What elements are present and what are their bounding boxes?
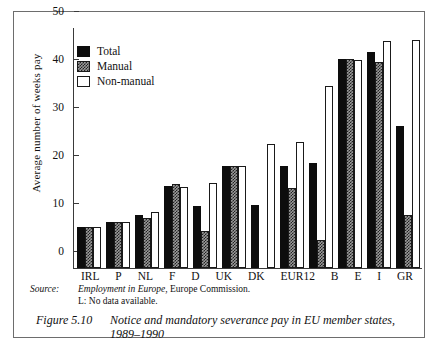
bar-nonmanual [93, 227, 101, 268]
source-line: Source: Employment in Europe, Europe Com… [30, 283, 420, 295]
bar-total [338, 59, 346, 268]
bar-total [106, 222, 114, 268]
bar-nonmanual [151, 212, 159, 268]
bar-total [222, 166, 230, 268]
source-publisher: , Europe Commission. [165, 284, 250, 294]
bar-manual [288, 188, 296, 268]
legend-swatch-manual [77, 61, 90, 72]
x-axis-label-eur12: EUR12 [280, 270, 315, 282]
bar-group [367, 28, 391, 268]
legend-item-nonmanual: Non-manual [77, 75, 154, 87]
x-axis-label-irl: IRL [81, 270, 100, 282]
bar-nonmanual [296, 142, 304, 268]
x-axis-label-i: I [377, 270, 381, 282]
y-axis-tick-label: 0 [58, 245, 64, 257]
y-axis-tick: 20 [53, 145, 75, 163]
bar-total [396, 126, 404, 268]
bar-total [135, 215, 143, 268]
bar-manual [404, 215, 412, 268]
bar-nonmanual [412, 40, 420, 268]
bar-total [309, 163, 317, 268]
x-axis-label-nl: NL [138, 270, 153, 282]
source-publication: Employment in Europe [78, 284, 165, 294]
y-axis-tick: 40 [53, 49, 75, 67]
legend-swatch-total [77, 46, 90, 57]
bar-nonmanual [238, 166, 246, 268]
bar-manual [172, 184, 180, 268]
bar-total [77, 227, 85, 268]
bar-nonmanual [354, 60, 362, 268]
bar-group [164, 28, 188, 268]
bar-manual [230, 166, 238, 268]
legend-label-nonmanual: Non-manual [97, 75, 154, 87]
x-axis-label-dk: DK [248, 270, 265, 282]
bar-nonmanual [122, 222, 130, 268]
bar-manual [114, 222, 122, 268]
bar-group [280, 28, 304, 268]
x-axis-labels: IRLPNLFDUKDKEUR12BEIGR [73, 270, 421, 282]
bar-manual [201, 231, 209, 268]
y-axis-tick-label: 20 [53, 149, 65, 161]
y-axis-tick: 50 [53, 1, 75, 19]
y-axis-tick-label: 10 [53, 197, 65, 209]
figure-frame: Average number of weeks pay 01020304050 … [13, 11, 425, 338]
x-axis-label-gr: GR [397, 270, 413, 282]
source-block: Source: Employment in Europe, Europe Com… [30, 283, 420, 308]
figure-page: Average number of weeks pay 01020304050 … [0, 0, 441, 350]
legend-item-total: Total [77, 45, 154, 57]
source-label: Source: [30, 283, 78, 295]
x-axis-label-b: B [331, 270, 339, 282]
legend-item-manual: Manual [77, 60, 154, 72]
bar-total [193, 206, 201, 268]
figure-caption: Figure 5.10 Notice and mandatory severan… [36, 313, 416, 341]
bar-manual [375, 62, 383, 268]
bar-nonmanual [180, 187, 188, 268]
source-value: Employment in Europe, Europe Commission. [78, 283, 420, 295]
bar-manual [143, 218, 151, 268]
figure-caption-text: Notice and mandatory severance pay in EU… [110, 313, 416, 341]
bar-nonmanual [209, 183, 217, 268]
bar-total [367, 52, 375, 268]
y-axis-tick: 0 [58, 241, 74, 259]
chart-block: Average number of weeks pay 01020304050 … [14, 12, 426, 274]
bar-manual [85, 227, 93, 268]
source-note: L: No data available. [78, 295, 420, 308]
bar-nonmanual [325, 86, 333, 268]
bar-manual [346, 59, 354, 268]
y-axis-tick-label: 40 [53, 53, 65, 65]
x-axis-label-f: F [169, 270, 175, 282]
y-axis-tick: 30 [53, 97, 75, 115]
bar-total [164, 186, 172, 268]
bar-manual [317, 240, 325, 268]
bar-total [251, 205, 259, 268]
bar-group [338, 28, 362, 268]
bar-total [280, 166, 288, 268]
chart-legend: TotalManualNon-manual [77, 45, 154, 87]
y-axis-title: Average number of weeks pay [30, 23, 42, 223]
bar-nonmanual [267, 144, 275, 268]
y-axis-tick-label: 50 [53, 5, 65, 17]
bar-group [193, 28, 217, 268]
bar-nonmanual [383, 41, 391, 268]
bar-group [309, 28, 333, 268]
legend-label-total: Total [97, 45, 120, 57]
x-axis-label-uk: UK [215, 270, 232, 282]
y-axis-tick-mark [74, 11, 79, 12]
x-axis-label-e: E [354, 270, 361, 282]
bar-group [396, 28, 420, 268]
bar-group [251, 28, 275, 268]
x-axis-label-d: D [191, 270, 199, 282]
x-axis-label-p: P [115, 270, 121, 282]
figure-number: Figure 5.10 [36, 313, 110, 341]
y-axis-tick: 10 [53, 193, 75, 211]
legend-label-manual: Manual [97, 60, 132, 72]
bar-group [222, 28, 246, 268]
legend-swatch-nonmanual [77, 76, 90, 87]
y-axis-tick-label: 30 [53, 101, 65, 113]
